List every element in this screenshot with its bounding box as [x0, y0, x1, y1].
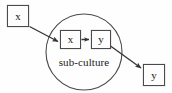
node-x-outer-label: x [15, 11, 21, 22]
node-y-outer-label: y [151, 70, 157, 81]
diagram-canvas: x x y y sub-culture [0, 0, 172, 93]
node-x-inner-label: x [68, 34, 74, 45]
sub-culture-circle [46, 14, 122, 90]
sub-culture-label: sub-culture [46, 56, 122, 68]
node-y-outer: y [143, 64, 165, 86]
node-x-outer: x [7, 5, 29, 27]
node-y-inner: y [91, 30, 111, 49]
node-y-inner-label: y [98, 34, 104, 45]
node-x-inner: x [60, 30, 81, 49]
